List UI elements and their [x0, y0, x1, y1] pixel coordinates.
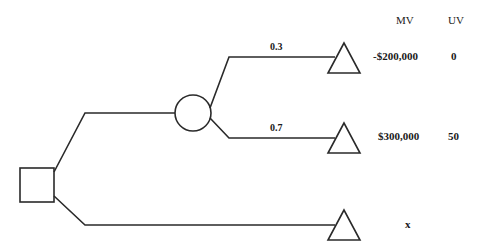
uv-value-3: x	[405, 218, 411, 230]
branch-to-chance-node	[54, 113, 175, 172]
uv-value-2: 50	[448, 130, 459, 142]
mv-value-1: -$200,000	[373, 50, 418, 62]
probability-label-1: 0.3	[270, 41, 283, 52]
terminal-node-triangle-1	[328, 43, 360, 73]
mv-value-2: $300,000	[378, 130, 419, 142]
uv-value-1: 0	[451, 50, 457, 62]
decision-tree-diagram	[0, 0, 482, 252]
header-mv: MV	[396, 14, 414, 26]
chance-node-circle	[175, 95, 211, 131]
header-uv: UV	[448, 14, 464, 26]
chance-branch-upper	[210, 57, 335, 108]
decision-node-square	[20, 168, 54, 202]
probability-label-2: 0.7	[270, 122, 283, 133]
branch-alternative	[54, 196, 335, 225]
